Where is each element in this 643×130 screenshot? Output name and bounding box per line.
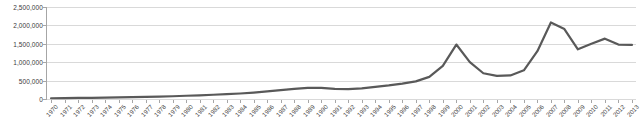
x-axis-tick-label: 1977 [139,103,154,118]
x-axis-tick-mark [483,100,484,103]
x-axis-tick-label: 1999 [436,103,451,118]
x-axis-tick-mark [294,100,295,103]
x-axis-tick-label: 1981 [193,103,208,118]
x-axis-tick-label: 1979 [166,103,181,118]
x-axis-tick-mark [267,100,268,103]
x-axis-tick-mark [227,100,228,103]
x-axis-tick-label: 1993 [355,103,370,118]
x-axis-tick-mark [159,100,160,103]
x-axis-tick-mark [78,100,79,103]
x-axis-tick-mark [591,100,592,103]
y-axis-tick-label: 1,000,000 [13,59,43,66]
x-axis-tick-mark [537,100,538,103]
x-axis-tick-mark [348,100,349,103]
x-axis-tick-mark [240,100,241,103]
y-axis: 0500,0001,000,0001,500,0002,000,0002,500… [0,0,43,130]
x-axis-tick-label: 2010 [585,103,600,118]
x-axis-tick-label: 1982 [207,103,222,118]
x-axis-tick-mark [524,100,525,103]
x-axis-tick-mark [605,100,606,103]
x-axis-tick-mark [321,100,322,103]
series-line-chart [47,7,636,99]
x-axis-tick-mark [429,100,430,103]
x-axis-tick-label: 1997 [409,103,424,118]
x-axis-tick-mark [564,100,565,103]
x-axis-tick-label: 1985 [247,103,262,118]
x-axis-tick-label: 2007 [544,103,559,118]
x-axis-tick-mark [51,100,52,103]
x-axis-tick-mark [186,100,187,103]
x-axis-tick-mark [173,100,174,103]
x-axis-tick-label: 2001 [463,103,478,118]
x-axis-tick-mark [389,100,390,103]
x-axis-tick-label: 1987 [274,103,289,118]
x-axis-tick-label: 2000 [450,103,465,118]
x-axis-tick-mark [132,100,133,103]
plot-area [47,7,636,99]
x-axis-tick-mark [497,100,498,103]
x-axis-tick-label: 1975 [112,103,127,118]
x-axis-tick-mark [470,100,471,103]
x-axis-tick-mark [578,100,579,103]
x-axis-tick-label: 1994 [369,103,384,118]
x-axis-tick-mark [308,100,309,103]
x-axis-tick-label: 2011 [599,103,613,118]
x-axis-tick-label: 2009 [571,103,586,118]
x-axis-tick-label: 2005 [517,103,532,118]
y-axis-tick-label: 2,000,000 [13,22,43,29]
x-axis-tick-label: 1976 [126,103,141,118]
x-axis-tick-mark [551,100,552,103]
x-axis-tick-label: 1984 [234,103,249,118]
x-axis-tick-mark [416,100,417,103]
x-axis-tick-mark [200,100,201,103]
x-axis-tick-label: 1998 [423,103,438,118]
x-axis: 1970197119721973197419751976197719781979… [47,100,636,130]
x-axis-tick-mark [510,100,511,103]
x-axis-tick-mark [119,100,120,103]
x-axis-tick-label: 1991 [328,103,343,118]
x-axis-tick-label: 1974 [99,103,114,118]
x-axis-tick-label: 2003 [490,103,505,118]
x-axis-tick-label: 1995 [382,103,397,118]
x-axis-tick-label: 2004 [504,103,519,118]
x-axis-tick-label: 2013 [625,103,640,118]
x-axis-tick-mark [146,100,147,103]
x-axis-tick-mark [618,100,619,103]
x-axis-tick-mark [443,100,444,103]
y-axis-tick-label: 2,500,000 [13,4,43,11]
x-axis-tick-label: 1996 [396,103,411,118]
x-axis-tick-mark [254,100,255,103]
x-axis-tick-label: 2008 [558,103,573,118]
x-axis-tick-label: 1983 [220,103,235,118]
x-axis-tick-label: 1980 [180,103,195,118]
y-axis-tick-label: 1,500,000 [13,40,43,47]
y-axis-tick-label: 500,000 [19,77,43,84]
x-axis-tick-mark [402,100,403,103]
x-axis-tick-label: 1992 [342,103,357,118]
x-axis-tick-mark [105,100,106,103]
x-axis-tick-mark [335,100,336,103]
x-axis-tick-label: 1988 [288,103,303,118]
x-axis-tick-label: 1972 [72,103,87,118]
x-axis-tick-label: 2002 [477,103,492,118]
x-axis-tick-label: 1970 [45,103,60,118]
x-axis-tick-label: 1978 [153,103,168,118]
x-axis-tick-mark [213,100,214,103]
x-axis-tick-mark [362,100,363,103]
x-axis-tick-mark [281,100,282,103]
x-axis-tick-mark [632,100,633,103]
x-axis-tick-label: 1971 [58,103,73,118]
line-chart: 0500,0001,000,0001,500,0002,000,0002,500… [0,0,643,130]
x-axis-tick-label: 2012 [612,103,627,118]
x-axis-tick-mark [375,100,376,103]
x-axis-tick-label: 1989 [301,103,316,118]
x-axis-tick-mark [65,100,66,103]
x-axis-tick-label: 1986 [261,103,276,118]
x-axis-tick-mark [456,100,457,103]
data-series-line [51,22,632,98]
x-axis-tick-label: 1973 [85,103,100,118]
x-axis-tick-label: 1990 [315,103,330,118]
x-axis-tick-label: 2006 [531,103,546,118]
x-axis-tick-mark [92,100,93,103]
